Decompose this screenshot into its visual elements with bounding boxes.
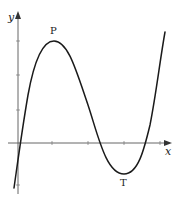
- y-axis: [15, 11, 21, 194]
- y-axis-label: y: [8, 12, 14, 23]
- curve-graph: [0, 0, 179, 199]
- x-axis-label: x: [165, 146, 171, 157]
- y-axis-arrow-icon: [15, 11, 21, 19]
- cubic-curve: [14, 32, 165, 188]
- x-axis: [8, 140, 172, 146]
- point-p-label: P: [50, 26, 57, 36]
- point-t-label: T: [120, 178, 127, 188]
